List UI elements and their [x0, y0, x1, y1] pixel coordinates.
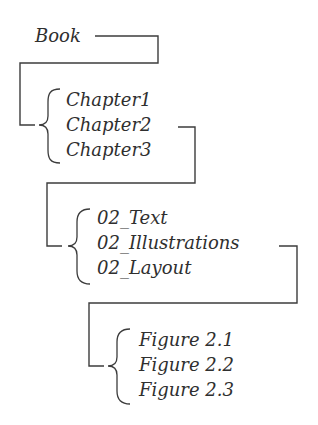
node-figure-2-3: Figure 2.3: [138, 379, 234, 400]
node-02-layout: 02_Layout: [97, 257, 192, 279]
brace-level2-icon: [68, 209, 90, 284]
brace-level3-icon: [108, 329, 130, 404]
connector-root-to-level1: [20, 36, 158, 125]
brace-level1-icon: [39, 89, 60, 163]
node-02-text: 02_Text: [97, 207, 168, 229]
node-root: Book: [34, 25, 81, 46]
node-figure-2-1: Figure 2.1: [138, 329, 234, 350]
node-figure-2-2: Figure 2.2: [138, 354, 234, 375]
node-chapter3: Chapter3: [66, 139, 152, 160]
node-chapter1: Chapter1: [66, 89, 152, 110]
node-chapter2: Chapter2: [66, 114, 152, 135]
node-02-illustrations: 02_Illustrations: [97, 232, 240, 254]
hierarchy-diagram: Book Chapter1 Chapter2 Chapter3 02_Text …: [0, 0, 318, 425]
